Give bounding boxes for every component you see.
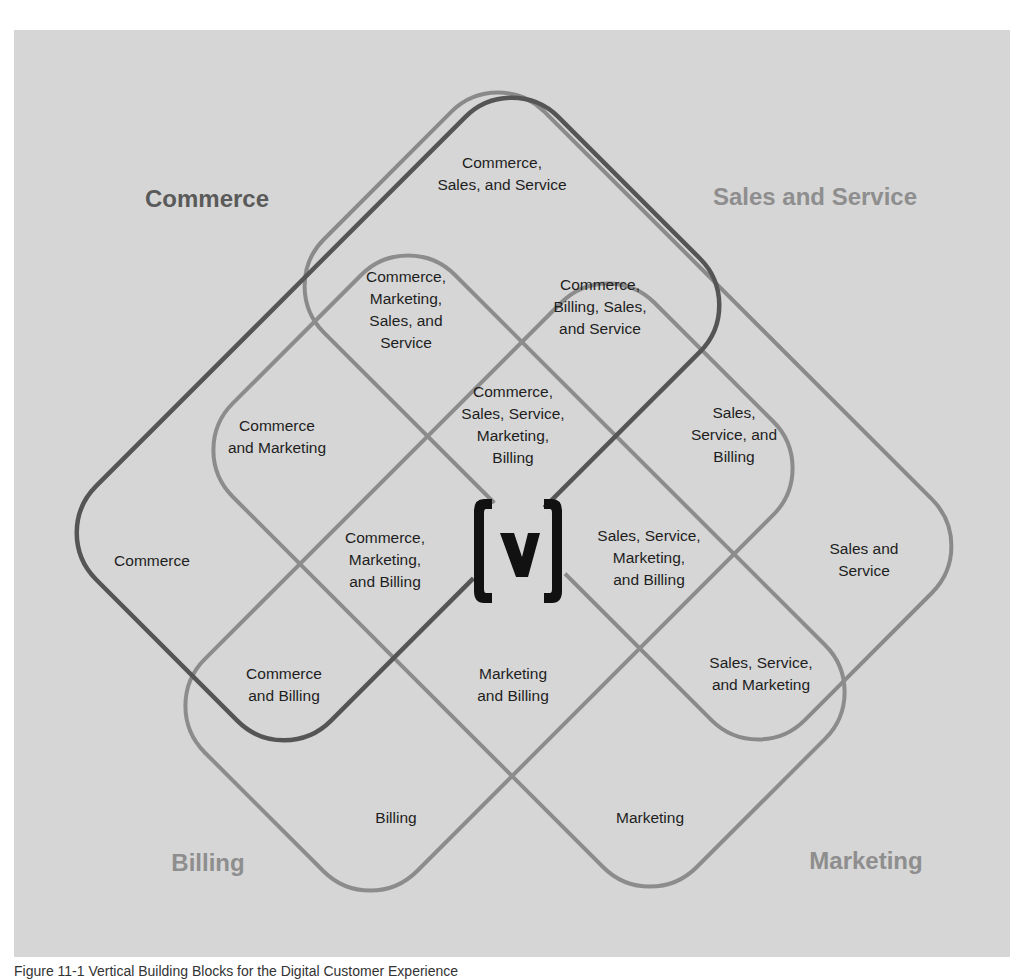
region-label-commerce-marketing-billing: Commerce, Marketing, and Billing	[345, 527, 425, 593]
region-label-sales-service-marketing: Sales, Service, and Marketing	[709, 652, 812, 696]
region-label-sales-service-billing: Sales, Service, and Billing	[691, 402, 777, 468]
set-title-sales-service: Sales and Service	[713, 183, 917, 211]
set-title-billing: Billing	[171, 849, 244, 877]
bracketed-v-logo-icon	[470, 495, 566, 607]
region-label-marketing-only: Marketing	[616, 807, 684, 829]
set-title-commerce: Commerce	[145, 185, 269, 213]
figure-caption: Figure 11-1 Vertical Building Blocks for…	[14, 963, 458, 979]
region-label-commerce-marketing-sales-service: Commerce, Marketing, Sales, and Service	[366, 266, 446, 354]
region-label-billing-only: Billing	[375, 807, 416, 829]
region-label-sales-service-marketing-billing: Sales, Service, Marketing, and Billing	[597, 525, 700, 591]
region-label-sales-service-only: Sales and Service	[830, 538, 899, 582]
region-label-marketing-billing: Marketing and Billing	[477, 663, 549, 707]
venn-shapes	[0, 0, 1028, 980]
set-title-marketing: Marketing	[809, 847, 922, 875]
region-label-commerce-billing: Commerce and Billing	[246, 663, 322, 707]
region-label-all-four: Commerce, Sales, Service, Marketing, Bil…	[461, 381, 564, 469]
region-label-commerce-only: Commerce	[114, 550, 190, 572]
region-label-commerce-billing-sales-service: Commerce, Billing, Sales, and Service	[553, 274, 646, 340]
region-label-commerce-sales-service: Commerce, Sales, and Service	[437, 152, 566, 196]
region-label-commerce-marketing: Commerce and Marketing	[228, 415, 326, 459]
